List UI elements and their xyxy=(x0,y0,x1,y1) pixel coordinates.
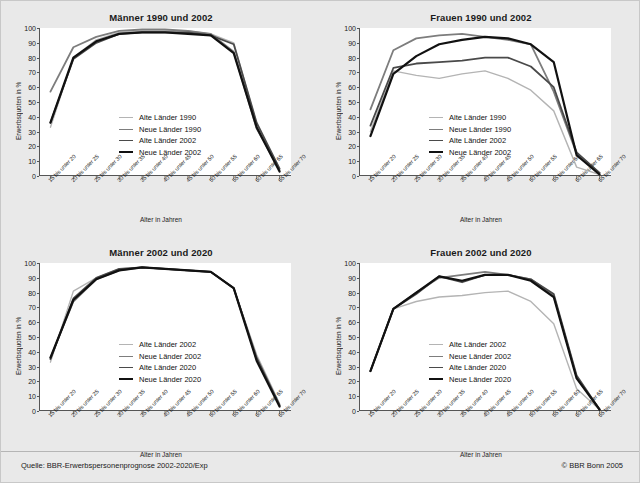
legend-label: Neue Länder 2002 xyxy=(139,352,201,361)
legend-line-icon xyxy=(119,140,133,141)
y-tick-label: 80 xyxy=(14,289,36,296)
y-tick-label: 30 xyxy=(334,128,356,135)
legend-item: Alte Länder 1990 xyxy=(429,112,511,124)
y-tick-label: 60 xyxy=(14,84,36,91)
legend-label: Alte Länder 2002 xyxy=(449,340,506,349)
y-tick-label: 100 xyxy=(14,260,36,267)
y-tick-label: 20 xyxy=(14,378,36,385)
legend-line-icon xyxy=(429,378,443,380)
y-tick-label: 90 xyxy=(334,39,356,46)
y-tick-label: 70 xyxy=(14,304,36,311)
y-tick-label: 100 xyxy=(14,25,36,32)
chart-panel-frauen-2002-2020: Frauen 2002 und 2020 Erwerbsquoten in % … xyxy=(321,239,640,464)
y-tick-label: 70 xyxy=(334,69,356,76)
y-tick-label: 30 xyxy=(14,128,36,135)
y-tick-label: 0 xyxy=(334,173,356,180)
y-tick-label: 60 xyxy=(334,84,356,91)
footer-copyright: © BBR Bonn 2005 xyxy=(562,461,623,470)
y-tick-label: 100 xyxy=(334,25,356,32)
legend-line-icon xyxy=(119,344,133,345)
legend-line-icon xyxy=(429,151,443,153)
legend-item: Neue Länder 2020 xyxy=(429,374,511,386)
legend: Alte Länder 2002Neue Länder 2002Alte Län… xyxy=(119,339,201,385)
legend-line-icon xyxy=(119,378,133,380)
legend-line-icon xyxy=(119,129,133,130)
legend-line-icon xyxy=(119,356,133,357)
chart-panel-maenner-1990-2002: Männer 1990 und 2002 Erwerbsquoten in % … xyxy=(1,4,321,229)
y-tick-label: 90 xyxy=(334,274,356,281)
legend-line-icon xyxy=(429,356,443,357)
legend-line-icon xyxy=(429,344,443,345)
legend: Alte Länder 1990Neue Länder 1990Alte Län… xyxy=(119,112,201,158)
y-tick-label: 60 xyxy=(334,319,356,326)
legend-item: Alte Länder 2002 xyxy=(119,135,201,147)
legend: Alte Länder 2002Neue Länder 2002Alte Län… xyxy=(429,339,511,385)
panel-title: Männer 2002 und 2020 xyxy=(1,247,321,258)
y-tick-label: 80 xyxy=(334,54,356,61)
legend-item: Neue Länder 2002 xyxy=(119,147,201,159)
y-tick-label: 10 xyxy=(14,158,36,165)
y-tick-label: 0 xyxy=(334,408,356,415)
legend-label: Alte Länder 2020 xyxy=(449,363,506,372)
x-axis-label: Alter in Jahren xyxy=(1,216,321,223)
legend-line-icon xyxy=(429,367,443,368)
legend-item: Neue Länder 2020 xyxy=(119,374,201,386)
y-tick-label: 50 xyxy=(334,334,356,341)
y-tick-label: 50 xyxy=(14,334,36,341)
legend-label: Alte Länder 2020 xyxy=(139,363,196,372)
y-tick-label: 20 xyxy=(14,143,36,150)
legend-item: Alte Länder 2002 xyxy=(119,339,201,351)
y-tick-label: 30 xyxy=(14,363,36,370)
y-tick-label: 20 xyxy=(334,378,356,385)
y-tick-label: 80 xyxy=(334,289,356,296)
legend-item: Alte Länder 1990 xyxy=(119,112,201,124)
y-tick-label: 60 xyxy=(14,319,36,326)
panel-title: Frauen 2002 und 2020 xyxy=(321,247,640,258)
y-tick-label: 40 xyxy=(14,113,36,120)
legend-line-icon xyxy=(429,140,443,141)
y-tick-label: 70 xyxy=(14,69,36,76)
y-tick-label: 90 xyxy=(14,39,36,46)
legend-line-icon xyxy=(429,117,443,118)
y-tick-label: 40 xyxy=(14,348,36,355)
y-tick-label: 70 xyxy=(334,304,356,311)
y-tick-label: 50 xyxy=(334,99,356,106)
legend-label: Alte Länder 2002 xyxy=(449,136,506,145)
y-tick-label: 10 xyxy=(14,393,36,400)
y-tick-label: 0 xyxy=(14,408,36,415)
y-tick-label: 40 xyxy=(334,348,356,355)
y-tick-label: 20 xyxy=(334,143,356,150)
legend-line-icon xyxy=(119,151,133,153)
legend-item: Neue Länder 1990 xyxy=(429,124,511,136)
legend-label: Neue Länder 1990 xyxy=(449,125,511,134)
x-axis-label: Alter in Jahren xyxy=(321,216,640,223)
legend-item: Neue Länder 1990 xyxy=(119,124,201,136)
y-tick-label: 30 xyxy=(334,363,356,370)
legend-label: Alte Länder 1990 xyxy=(449,113,506,122)
figure-root: Männer 1990 und 2002 Erwerbsquoten in % … xyxy=(0,0,640,483)
legend-label: Neue Länder 2002 xyxy=(139,148,201,157)
legend: Alte Länder 1990Neue Länder 1990Alte Län… xyxy=(429,112,511,158)
legend-label: Alte Länder 2002 xyxy=(139,340,196,349)
y-tick-label: 0 xyxy=(14,173,36,180)
legend-label: Alte Länder 1990 xyxy=(139,113,196,122)
footer-source: Quelle: BBR-Erwerbspersonenprognose 2002… xyxy=(21,461,208,470)
legend-label: Neue Länder 2020 xyxy=(449,375,511,384)
chart-panel-frauen-1990-2002: Frauen 1990 und 2002 Erwerbsquoten in % … xyxy=(321,4,640,229)
y-tick-label: 10 xyxy=(334,158,356,165)
legend-item: Alte Länder 2020 xyxy=(119,362,201,374)
chart-panel-maenner-2002-2020: Männer 2002 und 2020 Erwerbsquoten in % … xyxy=(1,239,321,464)
y-tick-label: 100 xyxy=(334,260,356,267)
y-tick-label: 90 xyxy=(14,274,36,281)
legend-line-icon xyxy=(119,117,133,118)
legend-item: Alte Länder 2020 xyxy=(429,362,511,374)
panel-title: Männer 1990 und 2002 xyxy=(1,12,321,23)
legend-item: Neue Länder 2002 xyxy=(429,351,511,363)
legend-label: Neue Länder 2020 xyxy=(139,375,201,384)
y-tick-label: 80 xyxy=(14,54,36,61)
legend-label: Neue Länder 2002 xyxy=(449,352,511,361)
legend-line-icon xyxy=(429,129,443,130)
series-line xyxy=(50,267,279,406)
legend-label: Neue Länder 2002 xyxy=(449,148,511,157)
legend-item: Alte Länder 2002 xyxy=(429,339,511,351)
